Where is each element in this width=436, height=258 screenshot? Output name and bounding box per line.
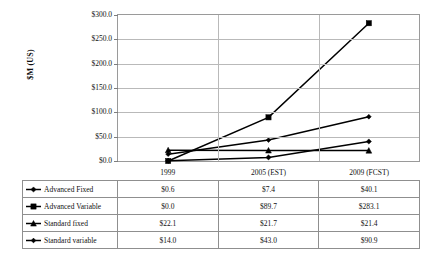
y-axis-tick-label: $100.0	[66, 107, 112, 116]
data-point-marker	[266, 155, 271, 160]
table-cell-value: $7.4	[218, 181, 319, 198]
category-divider	[218, 15, 219, 161]
y-axis-title: $M (US)	[26, 25, 35, 105]
legend-marker-icon	[26, 203, 41, 210]
data-point-marker	[266, 115, 271, 120]
legend-entry-2[interactable]: Advanced Variable	[23, 198, 118, 215]
y-axis-tick-mark	[114, 137, 118, 138]
plot-panel	[117, 14, 420, 162]
chart-figure: $M (US) $300.0$250.0$200.0$150.0$100.0$5…	[0, 0, 436, 258]
y-axis-tick-mark	[114, 112, 118, 113]
gridline	[118, 39, 419, 40]
plot-area-wrapper: $M (US) $300.0$250.0$200.0$150.0$100.0$5…	[0, 0, 436, 180]
y-axis-tick-label: $300.0	[66, 10, 112, 19]
table-cell-value: $14.0	[118, 232, 219, 249]
legend-marker-icon	[26, 186, 41, 193]
table-row: Standard fixed$22.1$21.7$21.4	[23, 215, 420, 232]
table-cell-value: $0.0	[118, 198, 219, 215]
x-axis-category-label: 1999	[118, 164, 219, 181]
legend-marker-icon	[26, 237, 41, 244]
data-point-marker	[366, 21, 371, 26]
x-axis-category-label: 2005 (EST)	[218, 164, 319, 181]
table-cell-value: $90.9	[319, 232, 420, 249]
table-row: Standard variable$14.0$43.0$90.9	[23, 232, 420, 249]
data-point-marker	[266, 138, 271, 143]
legend-marker-icon	[26, 220, 41, 227]
table-cell-value: $283.1	[319, 198, 420, 215]
table-cell-value: $40.1	[319, 181, 420, 198]
table-row: Advanced Fixed$0.6$7.4$40.1	[23, 181, 420, 198]
gridline	[118, 137, 419, 138]
gridline	[118, 88, 419, 89]
legend-entry-4[interactable]: Standard variable	[23, 232, 118, 249]
y-axis-tick-label: $250.0	[66, 34, 112, 43]
table-cell-value: $0.6	[118, 181, 219, 198]
table-cell-value: $21.4	[319, 215, 420, 232]
y-axis-tick-label: $150.0	[66, 83, 112, 92]
data-point-marker	[166, 158, 171, 163]
data-point-marker	[366, 139, 371, 144]
category-divider	[319, 15, 320, 161]
y-axis-tick-label: $200.0	[66, 58, 112, 67]
y-axis-tick-mark	[114, 161, 118, 162]
gridline	[118, 64, 419, 65]
x-axis-category-label: 2009 (FCST)	[319, 164, 420, 181]
category-header-row: 19992005 (EST)2009 (FCST)	[23, 164, 420, 181]
legend-label: Standard variable	[44, 236, 97, 245]
legend-label: Standard fixed	[44, 219, 88, 228]
table-cell-value: $21.7	[218, 215, 319, 232]
table-cell-value: $22.1	[118, 215, 219, 232]
data-table: 19992005 (EST)2009 (FCST)Advanced Fixed$…	[22, 164, 420, 249]
legend-entry-1[interactable]: Advanced Fixed	[23, 181, 118, 198]
legend-label: Advanced Fixed	[44, 185, 93, 194]
table-row: Advanced Variable$0.0$89.7$283.1	[23, 198, 420, 215]
y-axis-tick-mark	[114, 39, 118, 40]
y-axis-tick-mark	[114, 15, 118, 16]
category-header-corner	[23, 164, 118, 181]
legend-label: Advanced Variable	[44, 202, 101, 211]
legend-entry-3[interactable]: Standard fixed	[23, 215, 118, 232]
gridline	[118, 112, 419, 113]
table-cell-value: $89.7	[218, 198, 319, 215]
y-axis-tick-label: $50.0	[66, 131, 112, 140]
y-axis-tick-mark	[114, 64, 118, 65]
table-cell-value: $43.0	[218, 232, 319, 249]
y-axis-tick-mark	[114, 88, 118, 89]
data-point-marker	[366, 114, 371, 119]
y-axis-tick-labels: $300.0$250.0$200.0$150.0$100.0$50.0$0.0	[64, 0, 112, 180]
